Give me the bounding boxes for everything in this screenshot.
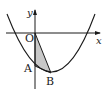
- point-b-label: B: [46, 75, 54, 88]
- y-axis-arrow-icon: [33, 9, 37, 15]
- parabola-curve: [7, 14, 95, 72]
- parabola-diagram: y x O A B: [0, 0, 110, 97]
- triangle-oab: [35, 33, 51, 73]
- y-axis-label: y: [26, 7, 33, 18]
- point-o-label: O: [25, 32, 34, 45]
- point-a-label: A: [23, 62, 33, 75]
- x-axis-label: x: [96, 35, 102, 46]
